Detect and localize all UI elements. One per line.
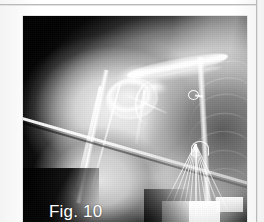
radiograph-image <box>23 16 247 222</box>
page-top-rule-shadow <box>0 5 256 6</box>
film-dark-wedge-bottom <box>144 189 189 222</box>
page-right-rule-shadow <box>257 0 258 222</box>
radiopaque-pad-secondary <box>216 197 243 211</box>
figure-caption: Fig. 10 <box>49 203 102 220</box>
radiograph-frame: Fig. 10 <box>23 16 247 222</box>
scanned-page: Fig. 10 <box>0 0 264 222</box>
